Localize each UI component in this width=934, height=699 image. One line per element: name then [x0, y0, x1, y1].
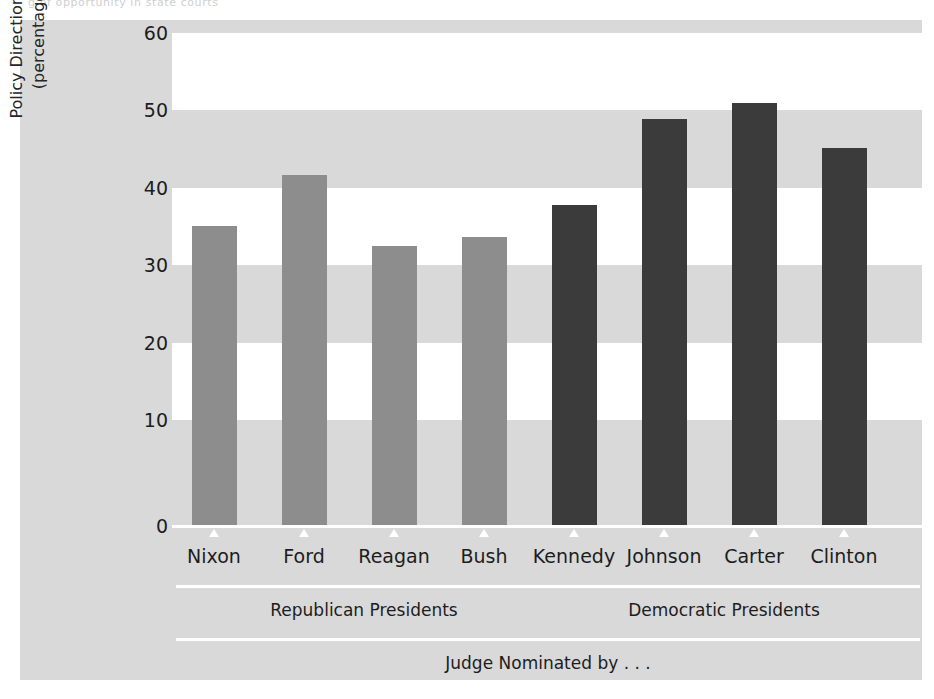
bar-nixon[interactable]: [192, 226, 237, 525]
tick-marker-ford-icon: [299, 529, 309, 537]
y-tick-30: 30: [144, 254, 168, 276]
y-tick-40: 40: [144, 177, 168, 199]
y-tick-20: 20: [144, 332, 168, 354]
x-label-reagan: Reagan: [358, 545, 429, 567]
bar-carter[interactable]: [732, 103, 777, 525]
tick-marker-clinton-icon: [839, 529, 849, 537]
x-label-kennedy: Kennedy: [533, 545, 615, 567]
tick-marker-reagan-icon: [389, 529, 399, 537]
x-label-nixon: Nixon: [187, 545, 241, 567]
x-label-bush: Bush: [460, 545, 507, 567]
group-rule-top: [176, 585, 920, 588]
x-label-ford: Ford: [283, 545, 324, 567]
y-axis-title-line2: (percentage liberal): [28, 0, 50, 170]
x-label-johnson: Johnson: [627, 545, 702, 567]
bar-bush[interactable]: [462, 237, 507, 525]
x-label-carter: Carter: [724, 545, 784, 567]
x-axis-baseline: [172, 525, 924, 528]
tick-marker-nixon-icon: [209, 529, 219, 537]
tick-marker-bush-icon: [479, 529, 489, 537]
x-label-clinton: Clinton: [811, 545, 878, 567]
band-50-60: [172, 33, 924, 110]
y-axis-title: Policy Direction of Decision (percentage…: [6, 0, 49, 170]
y-tick-50: 50: [144, 99, 168, 121]
tick-marker-kennedy-icon: [569, 529, 579, 537]
bar-clinton[interactable]: [822, 148, 867, 525]
y-tick-60: 60: [144, 22, 168, 44]
tick-marker-johnson-icon: [659, 529, 669, 537]
y-axis-tick-labels: 60 50 40 30 20 10 0: [112, 33, 168, 533]
group-label-republican: Republican Presidents: [270, 600, 457, 620]
group-rule-bottom: [176, 638, 920, 641]
group-label-democratic: Democratic Presidents: [628, 600, 820, 620]
chart-panel: Policy Direction of Decision (percentage…: [20, 20, 922, 680]
x-axis-title: Judge Nominated by . . .: [445, 653, 650, 673]
y-tick-0: 0: [156, 515, 168, 537]
y-axis-title-line1: Policy Direction of Decision: [6, 0, 28, 170]
bar-kennedy[interactable]: [552, 205, 597, 525]
figure-root: g of opportunity in state courts Policy …: [0, 0, 934, 699]
plot-area: Nixon Ford Reagan Bush Kennedy Johnson C…: [172, 33, 924, 533]
y-tick-10: 10: [144, 409, 168, 431]
bar-ford[interactable]: [282, 175, 327, 525]
bar-reagan[interactable]: [372, 246, 417, 525]
scan-artifact-text: g of opportunity in state courts: [28, 0, 219, 9]
bar-johnson[interactable]: [642, 119, 687, 525]
x-title-rule: [176, 691, 920, 694]
tick-marker-carter-icon: [749, 529, 759, 537]
